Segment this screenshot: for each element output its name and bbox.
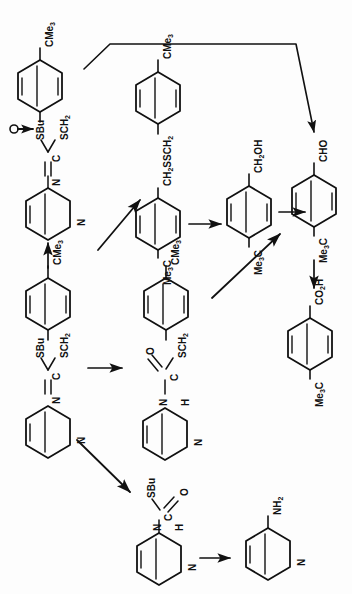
label-o-h: O <box>180 488 190 496</box>
label-pyridine-n-a: N <box>77 219 87 226</box>
benzene-ring-acid <box>288 318 332 370</box>
label-cme3-a: CMe3 <box>45 22 55 47</box>
label-nh2-i: NH2 <box>273 497 283 515</box>
benzene-ring-aldehyde <box>292 175 336 227</box>
label-pyridine-n-g: N <box>194 439 204 446</box>
label-h-h: H <box>175 524 185 531</box>
label-pyridine-n-f: N <box>77 437 87 444</box>
oxide-arrow-a <box>10 125 33 133</box>
pyridine-ring-g <box>143 408 187 460</box>
label-pyridine-n-i: N <box>297 559 307 566</box>
reaction-scheme-canvas: CMe3 SBu SCH2 C N N CMe3 CH2SSCH2 Me3C C… <box>0 0 352 594</box>
label-cme3-f: CMe3 <box>53 240 63 265</box>
label-c-h: C <box>164 514 174 521</box>
label-sbu-h: SBu <box>147 478 157 498</box>
label-o-g: O <box>146 347 156 355</box>
benzene-ring-disulfide-top <box>136 72 180 124</box>
label-cho: CHO <box>319 140 329 162</box>
arrow-diag-1 <box>98 200 140 250</box>
label-sbu-f: SBu <box>36 338 46 358</box>
benzene-ring-thiocarbamate <box>144 278 188 330</box>
label-me3c-c: Me3C <box>254 250 264 275</box>
label-sch2-a: SCH2 <box>60 115 70 140</box>
label-ch2oh: CH2OH <box>254 140 264 173</box>
label-ch2ssch2: CH2SSCH2 <box>163 136 173 186</box>
pyridine-ring-f <box>26 406 70 458</box>
label-n-g: N <box>159 399 169 406</box>
label-pyridine-n-h: N <box>188 564 198 571</box>
label-c-f: C <box>52 373 62 380</box>
label-n-h: N <box>153 524 163 531</box>
label-n-f: N <box>52 397 62 404</box>
label-c-g: C <box>170 374 180 381</box>
arrow-long-curved <box>84 44 314 132</box>
label-sch2-f: SCH2 <box>60 333 70 358</box>
arrow-diag-2 <box>212 234 280 298</box>
label-sbu-a: SBu <box>36 120 46 140</box>
label-me3c-e: Me3C <box>315 382 325 407</box>
pyridine-ring-a <box>26 188 70 240</box>
label-cme3-g: CMe3 <box>171 240 181 265</box>
arrow-diag-3 <box>77 440 130 492</box>
pyridine-ring-i <box>246 528 290 580</box>
label-c-a: C <box>52 155 62 162</box>
label-cme3-b: CMe3 <box>163 34 173 59</box>
scheme-vector-layer <box>0 0 352 594</box>
label-me3c-d: Me3C <box>319 238 329 263</box>
benzene-ring-reagent-f <box>26 278 70 330</box>
benzene-ring-alcohol <box>227 186 271 238</box>
label-h-g: H <box>181 399 191 406</box>
label-co2h: CO2H <box>315 279 325 305</box>
label-sch2-g: SCH2 <box>178 333 188 358</box>
label-n-a: N <box>52 179 62 186</box>
pyridine-ring-h <box>137 533 181 585</box>
benzene-ring-reagent-a <box>18 60 62 112</box>
